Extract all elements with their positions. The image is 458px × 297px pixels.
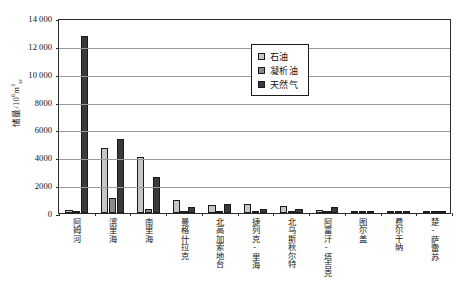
y-tick-mark (56, 76, 59, 77)
x-axis-label: 阿富汗-塔吉克 (321, 218, 330, 278)
x-axis-label: 捷列克-里海 (250, 218, 259, 269)
legend-item: 天然气 (258, 77, 298, 91)
bar (431, 211, 438, 213)
x-axis-label: 北乌斯秋尔特 (286, 218, 295, 268)
x-axis-label: 北高加索地台 (214, 218, 223, 268)
y-tick-mark (56, 159, 59, 160)
chart-legend: 石油凝析油天然气 (251, 44, 309, 96)
y-tick-mark (56, 187, 59, 188)
legend-label: 凝析油 (270, 64, 298, 77)
x-axis-label: 南里海 (143, 218, 152, 243)
bar-chart: 储量/106m3sc 0200040006000800010 00012 000… (0, 0, 458, 297)
x-axis-category-labels: 阿姆河滨里海南里海曼格什拉克北高加索地台捷列克-里海北乌斯秋尔特阿富汗-塔吉克图… (58, 215, 451, 297)
gridline (59, 187, 450, 188)
y-tick-label: 4000 (35, 154, 52, 163)
x-axis-label: 楚-萨雷苏 (429, 218, 438, 261)
x-axis-label: 图尔盖 (357, 218, 366, 243)
y-tick-label: 12 000 (28, 42, 52, 51)
y-tick-label: 0 (48, 210, 52, 219)
x-axis-label: 曼格什拉克 (178, 218, 187, 260)
y-tick-mark (56, 131, 59, 132)
x-axis-label: 费尔干纳 (393, 218, 402, 252)
bar (423, 211, 430, 213)
y-tick-label: 6000 (35, 126, 52, 135)
y-tick-label: 10 000 (28, 70, 52, 79)
x-axis-label: 阿姆河 (71, 218, 80, 243)
legend-swatch-icon (258, 81, 265, 88)
legend-label: 天然气 (270, 78, 298, 91)
legend-label: 石油 (270, 50, 289, 63)
x-axis-label: 滨里海 (107, 218, 116, 243)
gridline (59, 131, 450, 132)
bar (438, 211, 445, 213)
legend-swatch-icon (258, 53, 265, 60)
y-tick-label: 14 000 (28, 15, 52, 24)
y-tick-label: 2000 (35, 182, 52, 191)
gridline (59, 104, 450, 105)
gridline (59, 159, 450, 160)
legend-item: 石油 (258, 49, 298, 63)
y-tick-mark (56, 104, 59, 105)
y-tick-mark (56, 20, 59, 21)
y-tick-mark (56, 48, 59, 49)
y-axis-tick-labels: 0200040006000800010 00012 00014 000 (0, 0, 56, 297)
y-tick-label: 8000 (35, 98, 52, 107)
legend-swatch-icon (258, 67, 265, 74)
x-tick-mark (452, 213, 453, 216)
legend-item: 凝析油 (258, 63, 298, 77)
